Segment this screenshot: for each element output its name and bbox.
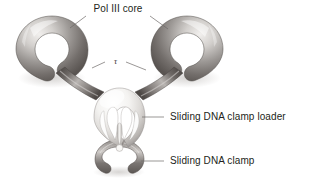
leader-tau-right	[126, 62, 146, 70]
diagram-canvas: Pol III core τ Sliding DNA clamp loader …	[0, 0, 309, 184]
leader-tau-left	[92, 62, 105, 68]
label-tau-subunit: τ	[114, 56, 118, 66]
label-pol-iii-core: Pol III core	[94, 3, 143, 14]
label-sliding-dna-clamp: Sliding DNA clamp	[170, 155, 255, 166]
core-left-ring	[16, 16, 88, 81]
core-right-ring	[151, 16, 223, 81]
label-sliding-dna-clamp-loader: Sliding DNA clamp loader	[170, 111, 286, 122]
clamp-loader	[94, 87, 145, 152]
pol-iii-holoenzyme-figure: Pol III core τ Sliding DNA clamp loader …	[0, 0, 309, 184]
clamp-loader-junction-node	[116, 145, 123, 152]
